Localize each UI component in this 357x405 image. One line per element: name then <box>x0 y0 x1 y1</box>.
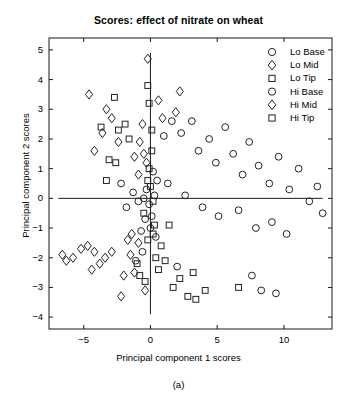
legend-label-hi-base: Hi Base <box>290 87 323 97</box>
data-point <box>115 127 121 133</box>
legend-label-lo-tip: Lo Tip <box>290 73 316 83</box>
data-point <box>249 272 256 279</box>
data-point <box>123 204 130 211</box>
y-tick-label: 4 <box>17 75 43 85</box>
series-lo-tip <box>98 83 241 303</box>
y-tick-label: −3 <box>17 282 43 292</box>
data-point <box>253 225 260 232</box>
data-point <box>156 267 162 273</box>
data-point <box>190 270 196 276</box>
data-point <box>135 238 142 247</box>
data-point <box>172 108 179 117</box>
data-point <box>230 150 237 157</box>
data-point <box>246 139 253 146</box>
data-point <box>108 114 115 123</box>
data-point <box>135 198 142 205</box>
legend-markers <box>268 48 276 121</box>
data-point <box>160 133 167 140</box>
x-tick-label: 5 <box>202 335 232 345</box>
data-point <box>174 263 181 270</box>
data-point <box>126 136 132 142</box>
data-point <box>319 210 326 217</box>
data-point <box>283 231 290 238</box>
data-point <box>222 124 229 131</box>
x-tick-label: −5 <box>69 335 99 345</box>
y-tick-label: 2 <box>17 134 43 144</box>
data-point <box>166 222 172 228</box>
data-point <box>188 118 195 125</box>
data-point <box>215 213 222 220</box>
data-point <box>170 285 176 291</box>
data-point <box>146 100 152 106</box>
y-tick-label: 1 <box>17 164 43 174</box>
x-tick-label: 10 <box>269 335 299 345</box>
data-point <box>69 253 76 262</box>
data-point <box>120 271 127 280</box>
data-point <box>235 207 242 214</box>
data-point <box>306 198 313 205</box>
data-point <box>151 192 158 199</box>
legend-marker-hi-base <box>268 88 275 95</box>
data-point <box>177 276 183 282</box>
data-point <box>145 178 151 184</box>
data-point <box>149 127 155 133</box>
data-point <box>103 105 110 114</box>
y-tick-label: −4 <box>17 312 43 322</box>
data-point <box>273 290 280 297</box>
data-point <box>122 121 128 127</box>
data-point <box>275 153 282 160</box>
figure-panel: Scores: effect of nitrate on wheat Princ… <box>0 0 357 405</box>
data-point <box>127 250 134 259</box>
y-tick-label: 5 <box>17 45 43 55</box>
data-point <box>139 248 146 255</box>
legend-marker-hi-tip <box>269 115 275 121</box>
legend-label-hi-mid: Hi Mid <box>290 100 317 110</box>
data-point <box>136 137 143 146</box>
data-point <box>108 247 115 256</box>
data-point <box>159 114 166 123</box>
data-point <box>141 210 147 216</box>
data-point <box>255 162 262 169</box>
data-point <box>145 237 151 243</box>
data-point <box>118 180 125 187</box>
series-lo-base <box>135 118 326 297</box>
data-point <box>176 87 183 96</box>
data-point <box>148 213 155 220</box>
data-point <box>154 177 161 184</box>
data-point <box>142 216 149 223</box>
data-point <box>130 189 137 196</box>
data-point <box>153 255 159 261</box>
y-tick-label: −1 <box>17 223 43 233</box>
data-point <box>142 279 148 285</box>
legend-label-hi-tip: Hi Tip <box>290 113 314 123</box>
data-point <box>149 148 155 154</box>
legend-marker-lo-tip <box>269 75 275 81</box>
data-point <box>139 120 146 129</box>
data-point <box>199 204 206 211</box>
data-point <box>96 259 103 268</box>
data-point <box>85 90 92 99</box>
x-tick-label: 0 <box>135 335 165 345</box>
data-point <box>84 241 91 250</box>
legend-marker-hi-mid <box>268 100 276 110</box>
data-point <box>158 243 164 249</box>
data-point <box>101 253 108 262</box>
legend-label-lo-mid: Lo Mid <box>290 60 319 70</box>
data-point <box>295 165 302 172</box>
data-point <box>195 147 202 154</box>
data-point <box>212 159 219 166</box>
data-point <box>182 192 189 199</box>
data-point <box>258 287 265 294</box>
data-point <box>135 170 142 179</box>
data-point <box>140 149 147 158</box>
data-point <box>286 186 293 193</box>
data-point <box>111 94 117 100</box>
data-point <box>91 247 98 256</box>
data-point <box>236 285 242 291</box>
data-point <box>168 118 175 125</box>
data-point <box>193 296 199 302</box>
data-point <box>185 293 191 299</box>
data-point <box>206 136 213 143</box>
data-point <box>164 180 171 187</box>
data-point <box>91 146 98 155</box>
